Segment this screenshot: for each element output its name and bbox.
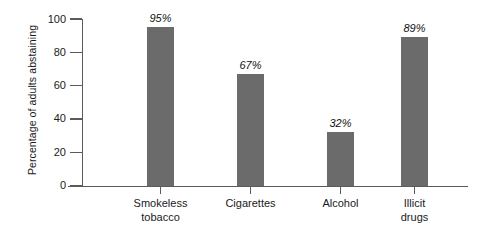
y-tick-label: 100: [24, 14, 66, 25]
y-tick-label-text: 80: [26, 47, 66, 58]
category-label-line: tobacco: [106, 211, 216, 225]
y-tick-mark: [70, 18, 82, 19]
y-tick-label-text: 0: [26, 180, 66, 191]
y-tick-mark: [70, 118, 82, 119]
x-axis-line: [68, 186, 468, 187]
y-tick-mark: [70, 52, 82, 53]
category-label-line: drugs: [360, 211, 470, 225]
y-tick-label-text: 20: [26, 147, 66, 158]
y-tick-label: 60: [24, 80, 66, 91]
y-tick-label: 40: [24, 113, 66, 124]
y-tick-label-text: 60: [26, 80, 66, 91]
bar: [237, 74, 264, 186]
bar: [147, 27, 174, 185]
bar-value-label: 89%: [380, 23, 450, 34]
y-tick-mark: [70, 152, 82, 153]
x-tick-mark: [340, 187, 341, 194]
bar-value-label: 95%: [126, 13, 196, 24]
x-tick-mark: [160, 187, 161, 194]
x-tick-mark: [414, 187, 415, 194]
bar: [401, 37, 428, 185]
y-tick-label-text: 100: [26, 14, 66, 25]
y-axis-line: [82, 19, 83, 187]
x-tick-mark: [250, 187, 251, 194]
y-tick-label-text: 40: [26, 113, 66, 124]
y-tick-mark: [70, 85, 82, 86]
category-label: Illicitdrugs: [360, 197, 470, 224]
category-label-line: Illicit: [360, 197, 470, 211]
y-tick-label: 80: [24, 47, 66, 58]
y-tick-label: 20: [24, 147, 66, 158]
bar-value-label: 32%: [306, 118, 376, 129]
y-tick-mark: [70, 185, 82, 186]
y-axis-title: Percentage of adults abstaining: [26, 10, 38, 190]
bar: [327, 132, 354, 185]
bar-value-label: 67%: [216, 60, 286, 71]
y-tick-label: 0: [24, 180, 66, 191]
bar-chart: Percentage of adults abstaining 02040608…: [0, 0, 481, 237]
